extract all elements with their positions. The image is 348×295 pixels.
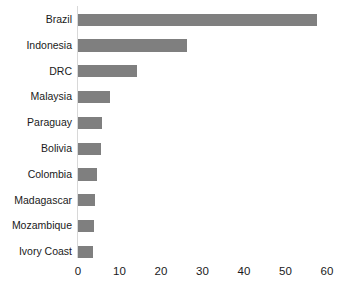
- bar-indonesia[interactable]: [78, 39, 187, 51]
- bar-chart: Brazil Indonesia DRC Malaysia: [0, 0, 348, 295]
- category-label-brazil: Brazil: [0, 7, 72, 33]
- bar-row: Bolivia: [0, 136, 348, 162]
- category-label-madagascar: Madagascar: [0, 188, 72, 214]
- category-label-indonesia: Indonesia: [0, 33, 72, 59]
- category-label-drc: DRC: [0, 59, 72, 85]
- bar-brazil[interactable]: [78, 14, 317, 26]
- bar-paraguay[interactable]: [78, 117, 102, 129]
- x-tick-label-0: 0: [58, 265, 98, 277]
- bar-rows: Brazil Indonesia DRC Malaysia: [0, 7, 348, 265]
- bar-madagascar[interactable]: [78, 194, 95, 206]
- category-label-mozambique: Mozambique: [0, 213, 72, 239]
- bar-row: Madagascar: [0, 188, 348, 214]
- bar-bolivia[interactable]: [78, 143, 101, 155]
- x-tick-label-50: 50: [266, 265, 306, 277]
- category-label-ivory-coast: Ivory Coast: [0, 239, 72, 265]
- bar-drc[interactable]: [78, 65, 137, 77]
- bar-row: Brazil: [0, 7, 348, 33]
- bar-malaysia[interactable]: [78, 91, 110, 103]
- bar-ivory-coast[interactable]: [78, 246, 93, 258]
- category-label-colombia: Colombia: [0, 162, 72, 188]
- bar-row: Paraguay: [0, 110, 348, 136]
- bar-row: Colombia: [0, 162, 348, 188]
- x-tick-label-30: 30: [183, 265, 223, 277]
- bar-row: Malaysia: [0, 84, 348, 110]
- category-label-bolivia: Bolivia: [0, 136, 72, 162]
- x-tick-label-20: 20: [141, 265, 181, 277]
- bar-row: Ivory Coast: [0, 239, 348, 265]
- bar-mozambique[interactable]: [78, 220, 94, 232]
- plot-area: Brazil Indonesia DRC Malaysia: [0, 0, 348, 295]
- bar-row: Indonesia: [0, 33, 348, 59]
- bar-colombia[interactable]: [78, 168, 97, 180]
- bar-row: DRC: [0, 59, 348, 85]
- x-tick-label-40: 40: [224, 265, 264, 277]
- category-label-malaysia: Malaysia: [0, 84, 72, 110]
- bar-row: Mozambique: [0, 213, 348, 239]
- x-axis: [0, 258, 348, 259]
- x-tick-label-10: 10: [100, 265, 140, 277]
- x-tick-label-60: 60: [307, 265, 347, 277]
- category-label-paraguay: Paraguay: [0, 110, 72, 136]
